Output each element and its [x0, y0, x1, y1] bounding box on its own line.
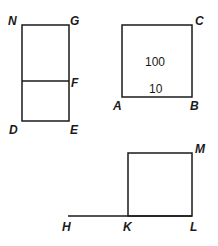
label-l: L	[190, 221, 197, 233]
rectangle-ngde	[22, 25, 69, 121]
label-g: G	[70, 15, 79, 27]
label-b: B	[190, 100, 199, 112]
diagram-canvas	[0, 0, 218, 246]
label-a: A	[113, 100, 122, 112]
label-c: C	[195, 15, 204, 27]
square-klm	[128, 153, 192, 216]
label-k: K	[123, 221, 132, 233]
label-h: H	[62, 221, 71, 233]
label-f: F	[71, 77, 78, 89]
side-label: 10	[149, 83, 162, 95]
label-n: N	[8, 15, 17, 27]
label-d: D	[9, 124, 18, 136]
area-label: 100	[145, 56, 165, 68]
label-e: E	[70, 124, 78, 136]
label-m: M	[195, 143, 205, 155]
